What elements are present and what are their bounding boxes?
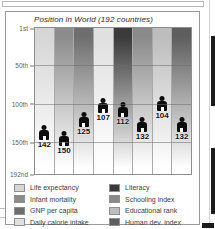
person-icon bbox=[98, 98, 109, 113]
bar-columns: 142150125107112132104132 bbox=[35, 28, 191, 174]
y-axis-tick: 1st bbox=[19, 25, 34, 32]
person-icon bbox=[157, 96, 168, 111]
bar-value-label: 132 bbox=[169, 132, 192, 142]
legend-item[interactable]: Literacy bbox=[109, 182, 194, 194]
y-axis-tick-label: 50th bbox=[15, 62, 28, 69]
legend-swatch bbox=[14, 207, 25, 215]
y-axis-tick-label: 1st bbox=[19, 25, 28, 32]
legend-swatch bbox=[109, 184, 120, 192]
bar-value-label: 132 bbox=[129, 132, 155, 142]
person-icon bbox=[176, 117, 187, 132]
legend-item-label: Daily calorie intake bbox=[30, 219, 89, 226]
legend-item-label: Schooling index bbox=[125, 196, 174, 203]
chart-title: Position in World (192 countries) bbox=[34, 15, 153, 24]
y-axis-tick-label: 192nd bbox=[10, 171, 28, 178]
right-rail-divider bbox=[209, 0, 210, 228]
legend-swatch bbox=[109, 218, 120, 226]
person-icon bbox=[117, 102, 128, 117]
legend-item[interactable]: Infant mortality bbox=[14, 194, 99, 206]
person-icon bbox=[78, 112, 89, 127]
y-axis-tick: 192nd bbox=[10, 171, 34, 178]
bar-column[interactable]: 132 bbox=[172, 28, 191, 174]
y-axis-tick-label: 150th bbox=[12, 138, 28, 145]
legend-item-label: Infant mortality bbox=[30, 196, 76, 203]
page-background: Position in World (192 countries) 1st50t… bbox=[0, 0, 215, 228]
legend-item[interactable]: Educational rank bbox=[109, 205, 194, 217]
plot-area: 142150125107112132104132 bbox=[34, 27, 192, 175]
gridline bbox=[35, 174, 191, 175]
right-scrollbar-segment-top[interactable] bbox=[211, 36, 215, 106]
legend-item-label: Literacy bbox=[125, 184, 150, 191]
person-icon bbox=[58, 131, 69, 146]
y-axis-tick-label: 100th bbox=[12, 100, 28, 107]
y-axis-tick: 150th bbox=[12, 138, 34, 145]
legend-column-right: LiteracySchooling indexEducational rankH… bbox=[109, 182, 194, 228]
legend-column-left: Life expectancyInfant mortalityGNP per c… bbox=[14, 182, 99, 228]
top-toolbar-strip bbox=[2, 1, 204, 7]
legend-item-label: GNP per capita bbox=[30, 207, 78, 214]
y-axis-tick: 100th bbox=[12, 100, 34, 107]
legend-swatch bbox=[14, 218, 25, 226]
legend-item[interactable]: Schooling index bbox=[109, 194, 194, 206]
legend-swatch bbox=[109, 207, 120, 215]
legend-item-label: Educational rank bbox=[125, 207, 177, 214]
legend-item[interactable]: Daily calorie intake bbox=[14, 217, 99, 229]
bottom-right-marker bbox=[202, 223, 214, 228]
bar-value-marker: 132 bbox=[169, 117, 192, 142]
right-scrollbar-segment-bottom[interactable] bbox=[211, 148, 215, 214]
chart-legend: Life expectancyInfant mortalityGNP per c… bbox=[14, 182, 194, 228]
legend-item[interactable]: GNP per capita bbox=[14, 205, 99, 217]
bar-column[interactable]: 150 bbox=[55, 28, 75, 174]
y-axis: 1st50th100th150th192nd bbox=[6, 27, 34, 175]
person-icon bbox=[39, 125, 50, 140]
legend-item-label: Human dev. index bbox=[125, 219, 181, 226]
person-icon bbox=[137, 117, 148, 132]
legend-swatch bbox=[14, 184, 25, 192]
bar-value-label: 150 bbox=[51, 146, 77, 156]
y-axis-tick: 50th bbox=[15, 62, 34, 69]
legend-item[interactable]: Life expectancy bbox=[14, 182, 99, 194]
bar-column[interactable]: 104 bbox=[153, 28, 173, 174]
chart-figure: Position in World (192 countries) 1st50t… bbox=[5, 11, 200, 225]
legend-swatch bbox=[14, 195, 25, 203]
legend-swatch bbox=[109, 195, 120, 203]
bar-value-marker: 132 bbox=[129, 117, 155, 142]
bar-value-label: 125 bbox=[71, 127, 97, 137]
legend-item[interactable]: Human dev. index bbox=[109, 217, 194, 229]
bar-column[interactable]: 112 bbox=[114, 28, 134, 174]
legend-item-label: Life expectancy bbox=[30, 184, 79, 191]
